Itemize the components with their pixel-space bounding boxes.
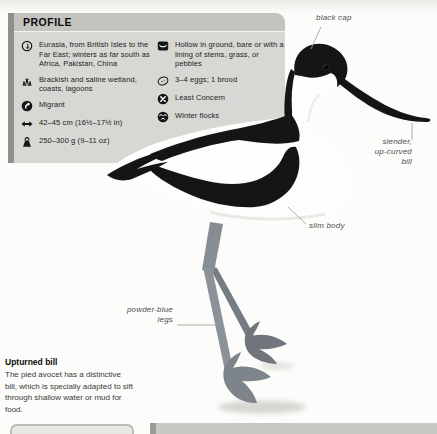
habitat-icon [21, 75, 33, 87]
migration-icon [21, 100, 33, 112]
egg-icon [157, 75, 169, 87]
black-cap-leader-line [311, 27, 321, 49]
profile-item-weight: 250–300 g (9–11 oz) [21, 136, 153, 148]
profile-item-distribution: Eurasia, from British Isles to the Far E… [21, 40, 153, 69]
status-icon [157, 93, 169, 105]
profile-item-text: Least Concern [175, 93, 225, 103]
profile-item-text: Migrant [39, 100, 65, 110]
bill-text-line2: up-curved [375, 147, 412, 157]
bird-front-foot [223, 352, 271, 403]
profile-item-text: Brackish and saline wetland, coasts, lag… [39, 75, 153, 94]
bill-text-line1: slender, [375, 137, 412, 147]
profile-panel: PROFILE Eurasia, from British Isles to t… [8, 13, 285, 163]
bird-eye-glint [324, 65, 325, 66]
bird-body-shading [210, 212, 325, 219]
profile-right-column: Hollow in ground, bare or with a lining … [157, 40, 287, 123]
bird-black-cap [294, 44, 347, 87]
slim-body-leader-line [288, 207, 306, 224]
bill-text-line3: bill [375, 157, 412, 167]
panel-body: Eurasia, from British Isles to the Far E… [14, 32, 285, 163]
bird-front-leg [203, 267, 233, 371]
nest-icon [157, 40, 169, 52]
profile-left-column: Eurasia, from British Isles to the Far E… [21, 40, 153, 148]
field-guide-page: PROFILE Eurasia, from British Isles to t… [0, 0, 437, 434]
profile-item-nest: Hollow in ground, bare or with a lining … [157, 40, 287, 69]
ground-shadow-back [260, 363, 294, 370]
bird-eye [323, 64, 328, 69]
profile-item-text: 250–300 g (9–11 oz) [39, 136, 110, 146]
profile-item-eggs: 3–4 eggs; 1 brood [157, 75, 287, 87]
profile-item-migration: Migrant [21, 100, 153, 112]
weight-icon [21, 136, 33, 148]
panel-header: PROFILE [14, 13, 285, 32]
profile-item-text: Eurasia, from British Isles to the Far E… [39, 40, 153, 69]
length-icon [21, 118, 33, 130]
next-section-panel-right [150, 423, 437, 434]
profile-item-status: Least Concern [157, 93, 287, 105]
legs-text-line2: legs [127, 315, 173, 325]
bird-back-foot [245, 321, 287, 364]
profile-item-flocking: Winter flocks [157, 111, 287, 123]
next-panel-left-edge [150, 423, 156, 434]
profile-item-text: Winter flocks [175, 111, 219, 121]
panel-title: PROFILE [14, 16, 72, 28]
profile-item-habitat: Brackish and saline wetland, coasts, lag… [21, 75, 153, 94]
profile-item-text: Hollow in ground, bare or with a lining … [175, 40, 287, 69]
bird-bill [337, 76, 430, 122]
black-cap-text: black cap [316, 13, 352, 22]
slim-body-text: slim body [309, 221, 345, 230]
caption-body: The pied avocet has a distinctive bill, … [5, 369, 134, 415]
caption-block: Upturned bill The pied avocet has a dist… [5, 357, 134, 415]
bird-neck-shading [308, 95, 320, 122]
black-cap-label: black cap [316, 13, 352, 23]
flock-icon [157, 111, 169, 123]
bird-back-leg [209, 266, 254, 340]
legs-label: powder-blue legs [127, 305, 173, 325]
caption-title: Upturned bill [5, 357, 134, 367]
distribution-icon [21, 40, 33, 52]
bird-upper-leg [202, 222, 223, 272]
profile-item-length: 42–45 cm (16½–17½ in) [21, 118, 153, 130]
next-section-panel-left [10, 424, 134, 434]
profile-item-text: 42–45 cm (16½–17½ in) [39, 118, 122, 128]
legs-text-line1: powder-blue [127, 305, 173, 315]
profile-item-text: 3–4 eggs; 1 brood [175, 75, 237, 85]
bill-label: slender, up-curved bill [375, 137, 412, 167]
slim-body-label: slim body [309, 221, 345, 231]
ground-shadow [218, 401, 306, 414]
